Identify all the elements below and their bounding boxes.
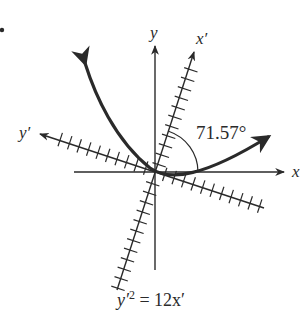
y-axis-label: y — [148, 23, 158, 42]
rotation-angle-label: 71.57° — [196, 122, 246, 143]
x-prime-axis-label: x′ — [195, 29, 208, 48]
y-prime-axis-label: y′ — [17, 123, 31, 142]
caption-rhs: = 12x′ — [135, 290, 185, 310]
y-prime-axis — [40, 133, 264, 213]
rotated-parabola-diagram: y x′ y′ x 71.57° y′2 = 12x′ — [0, 0, 306, 317]
equation-caption: y′2 = 12x′ — [115, 288, 185, 310]
x-axis-label: x — [291, 162, 300, 181]
marker-dot — [0, 28, 4, 32]
caption-lhs: y′ — [115, 290, 130, 310]
